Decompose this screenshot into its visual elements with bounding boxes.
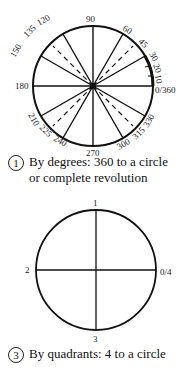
figure1-caption-line1: By degrees: 360 to a circle xyxy=(29,154,168,169)
figure1-caption-line2: or complete revolution xyxy=(29,170,147,185)
svg-text:3: 3 xyxy=(93,334,98,344)
svg-text:120: 120 xyxy=(35,12,52,28)
figure1-number-badge: 1 xyxy=(8,155,24,171)
svg-text:0/4: 0/4 xyxy=(160,267,172,277)
svg-text:300: 300 xyxy=(115,136,132,152)
svg-text:1: 1 xyxy=(93,198,98,208)
svg-text:135: 135 xyxy=(21,22,38,39)
quadrant-labels: 1 2 3 0/4 xyxy=(25,198,172,344)
svg-text:180: 180 xyxy=(15,81,29,91)
figure3-caption-line1: By quadrants: 4 to a circle xyxy=(29,346,166,361)
quadrants-circle xyxy=(36,210,156,330)
svg-text:225: 225 xyxy=(38,122,55,139)
svg-text:150: 150 xyxy=(8,42,24,59)
figure3-number-badge: 3 xyxy=(8,347,24,363)
figure1-caption: 1By degrees: 360 to a circle or complete… xyxy=(8,155,168,185)
figure3-caption: 3By quadrants: 4 to a circle xyxy=(8,347,166,363)
svg-text:240: 240 xyxy=(52,133,69,149)
diagram-canvas: 90 60 45 30 20 10 0/360 120 135 150 180 … xyxy=(0,0,193,370)
svg-text:90: 90 xyxy=(86,14,96,24)
svg-text:0/360: 0/360 xyxy=(155,85,176,95)
svg-text:10: 10 xyxy=(153,74,164,85)
svg-text:2: 2 xyxy=(25,265,30,275)
